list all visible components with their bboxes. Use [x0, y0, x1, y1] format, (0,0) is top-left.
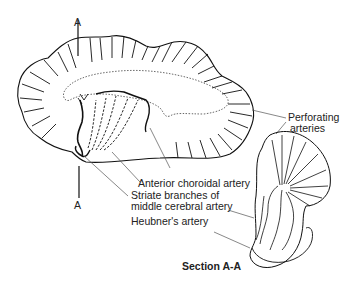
- label-anterior-choroidal-artery: Anterior choroidal artery: [138, 178, 250, 189]
- section-aa-lines: [256, 135, 328, 250]
- label-section-title: Section A-A: [182, 261, 241, 272]
- hemisphere-outline: [18, 36, 254, 163]
- brain-illustration: [0, 0, 352, 291]
- diagram-canvas: A A Perforating arteries Anterior choroi…: [0, 0, 352, 291]
- section-marker-top-label: A: [74, 17, 81, 28]
- label-heubners-artery: Heubner's artery: [131, 216, 208, 227]
- dashed-branches: [88, 96, 138, 150]
- label-perforating-arteries-line2: arteries: [290, 123, 325, 134]
- striate-vessels: [75, 91, 149, 156]
- section-marker-lines: [78, 20, 79, 198]
- section-marker-bottom-label: A: [74, 200, 81, 211]
- ventricle-dotted: [63, 70, 228, 116]
- label-striate-branches-line2: middle cerebral artery: [131, 201, 233, 212]
